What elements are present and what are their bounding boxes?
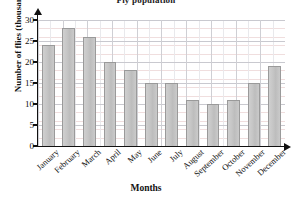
x-tick-label: March bbox=[79, 147, 102, 169]
bar-slot bbox=[244, 20, 265, 146]
bar bbox=[145, 83, 158, 146]
bar-slot bbox=[141, 20, 162, 146]
y-axis-ticks: 051015202530 bbox=[0, 0, 34, 201]
bar-series bbox=[38, 20, 285, 146]
bar bbox=[248, 83, 261, 146]
bar bbox=[207, 104, 220, 146]
bar bbox=[42, 45, 55, 146]
bar-slot bbox=[223, 20, 244, 146]
chart-title: Fly population bbox=[0, 0, 292, 5]
x-tick-label: May bbox=[125, 147, 143, 165]
bar-slot bbox=[79, 20, 100, 146]
bar-slot bbox=[100, 20, 121, 146]
bar bbox=[62, 28, 75, 146]
bar-slot bbox=[59, 20, 80, 146]
bar bbox=[104, 62, 117, 146]
bar-slot bbox=[38, 20, 59, 146]
bar bbox=[227, 100, 240, 146]
bar bbox=[268, 66, 281, 146]
bar bbox=[165, 83, 178, 146]
bar-slot bbox=[120, 20, 141, 146]
bar-slot bbox=[162, 20, 183, 146]
x-tick-label: June bbox=[146, 147, 164, 165]
x-axis-tick-labels: JanuaryFebruaryMarchAprilMayJuneJulyAugu… bbox=[38, 147, 285, 187]
y-axis-arrow-icon bbox=[34, 8, 42, 15]
bar bbox=[124, 70, 137, 146]
x-axis-title: Months bbox=[0, 183, 292, 193]
bar bbox=[83, 37, 96, 146]
fly-population-bar-chart: Fly population Number of flies (thousand… bbox=[0, 0, 292, 201]
bar-slot bbox=[203, 20, 224, 146]
x-tick-label: April bbox=[103, 147, 123, 166]
bar-slot bbox=[182, 20, 203, 146]
x-axis-arrow-icon bbox=[284, 143, 291, 151]
bar bbox=[186, 100, 199, 146]
bar-slot bbox=[264, 20, 285, 146]
